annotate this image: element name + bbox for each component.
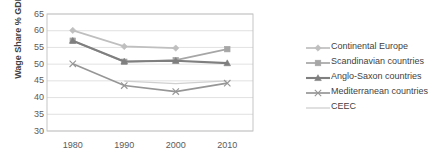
chart-legend: Continental EuropeScandinavian countries… [305, 38, 445, 113]
legend-label: Continental Europe [331, 41, 408, 51]
legend-label: Anglo-Saxon countries [331, 71, 422, 81]
marker-diamond [70, 27, 76, 33]
wage-share-line-chart: Wage Share % GDP 3035404550556065 198019… [0, 0, 446, 164]
legend-label: Scandinavian countries [331, 56, 424, 66]
legend-item[interactable]: CEEC [305, 98, 445, 113]
legend-item[interactable]: Anglo-Saxon countries [305, 68, 445, 83]
data-point-square [315, 60, 321, 66]
marker-diamond [121, 43, 127, 49]
data-point-diamond [121, 43, 127, 49]
data-point-square [224, 46, 230, 52]
marker-square [315, 60, 321, 66]
legend-label: Mediterranean countries [331, 86, 428, 96]
data-point-diamond [173, 45, 179, 51]
marker-square [224, 46, 230, 52]
series-line [124, 81, 227, 84]
series-line [73, 41, 228, 63]
series-mediterranean-countries [70, 61, 231, 95]
marker-diamond [173, 45, 179, 51]
data-point-diamond [315, 44, 321, 50]
series-anglo-saxon-countries [69, 37, 230, 65]
marker-diamond [315, 44, 321, 50]
legend-marker-x-icon [305, 85, 331, 97]
legend-item[interactable]: Mediterranean countries [305, 83, 445, 98]
legend-marker-triangle-icon [305, 70, 331, 82]
series-line [73, 64, 228, 92]
legend-marker-none-icon [305, 100, 331, 112]
series-ceec [124, 81, 227, 84]
legend-marker-square-icon [305, 55, 331, 67]
series-line [73, 41, 228, 62]
legend-item[interactable]: Scandinavian countries [305, 53, 445, 68]
data-point-diamond [70, 27, 76, 33]
legend-item[interactable]: Continental Europe [305, 38, 445, 53]
legend-marker-diamond-icon [305, 40, 331, 52]
legend-label: CEEC [331, 101, 356, 111]
